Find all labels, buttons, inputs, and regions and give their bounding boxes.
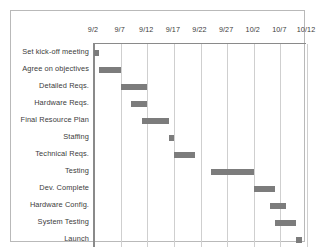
axis-tick-label-10-12: 10/12 <box>297 25 316 34</box>
gantt-bar-technical-reqs[interactable] <box>174 152 195 158</box>
task-label-system-testing: System Testing <box>38 217 89 226</box>
axis-tick-label-10-7: 10/7 <box>272 25 286 34</box>
axis-tick-label-9-7: 9/7 <box>114 25 124 34</box>
task-label-hardware-reqs: Hardware Reqs. <box>34 98 89 107</box>
gantt-bar-launch[interactable] <box>296 237 301 243</box>
task-label-dev-complete: Dev. Complete <box>39 183 89 192</box>
plot-area <box>93 43 306 247</box>
axis-tick-label-9-27: 9/27 <box>219 25 233 34</box>
gantt-bar-hardware-reqs[interactable] <box>131 101 147 107</box>
axis-tick-label-9-2: 9/2 <box>88 25 98 34</box>
date-axis-header: 9/29/79/129/179/229/2710/210/710/12 <box>11 11 304 33</box>
task-label-staffing: Staffing <box>63 132 89 141</box>
task-label-launch: Launch <box>64 234 89 243</box>
task-label-final-resource-plan: Final Resource Plan <box>21 115 89 124</box>
gantt-bar-agree-on-objectives[interactable] <box>99 67 120 73</box>
gridline-10-12 <box>307 44 308 247</box>
gantt-bar-testing[interactable] <box>211 169 254 175</box>
gridline-9-2 <box>94 44 95 247</box>
gantt-bar-staffing[interactable] <box>169 135 174 141</box>
gridline-10-2 <box>254 44 255 247</box>
gridline-9-7 <box>121 44 122 247</box>
task-label-detailed-reqs: Detailed Reqs. <box>39 81 89 90</box>
task-label-testing: Testing <box>65 166 89 175</box>
task-label-set-kick-off-meeting: Set kick-off meeting <box>22 47 89 56</box>
gridline-9-17 <box>174 44 175 247</box>
gridline-9-12 <box>147 44 148 247</box>
gridline-9-27 <box>227 44 228 247</box>
gantt-bar-dev-complete[interactable] <box>254 186 275 192</box>
gridline-9-22 <box>201 44 202 247</box>
task-label-hardware-config: Hardware Config. <box>30 200 89 209</box>
task-label-column: Set kick-off meetingAgree on objectivesD… <box>11 43 89 247</box>
chart-frame: 9/29/79/129/179/229/2710/210/710/12 Set … <box>10 10 305 242</box>
axis-tick-label-9-12: 9/12 <box>139 25 153 34</box>
gantt-bar-system-testing[interactable] <box>275 220 296 226</box>
axis-tick-label-9-22: 9/22 <box>192 25 206 34</box>
task-label-technical-reqs: Technical Reqs. <box>35 149 89 158</box>
gantt-bar-hardware-config[interactable] <box>270 203 286 209</box>
gantt-bar-set-kick-off-meeting[interactable] <box>94 50 99 56</box>
axis-tick-label-9-17: 9/17 <box>166 25 180 34</box>
gantt-bar-detailed-reqs[interactable] <box>121 84 148 90</box>
task-label-agree-on-objectives: Agree on objectives <box>22 64 89 73</box>
gantt-bar-final-resource-plan[interactable] <box>142 118 169 124</box>
axis-tick-label-10-2: 10/2 <box>246 25 260 34</box>
gantt-chart-figure: 9/29/79/129/179/229/2710/210/710/12 Set … <box>0 0 317 251</box>
gridline-10-7 <box>280 44 281 247</box>
